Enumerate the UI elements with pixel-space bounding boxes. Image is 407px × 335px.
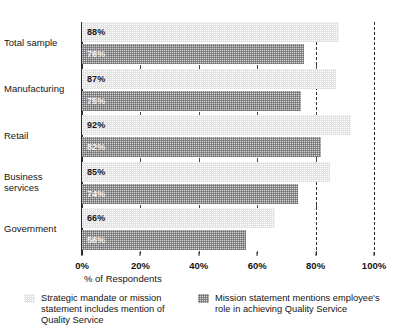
category-label-5: Government — [4, 224, 80, 235]
category-label-2: Manufacturing — [4, 84, 80, 95]
minor-tick-mark — [316, 66, 317, 69]
bar-employee-role: 56% — [82, 230, 246, 250]
x-tick-label-0pct: 0% — [75, 260, 89, 271]
bar-value-label: 56% — [87, 235, 105, 245]
bar-value-label: 92% — [87, 120, 105, 130]
x-tick-mark — [82, 252, 83, 256]
light-dotted-swatch — [24, 294, 35, 303]
bar-employee-role: 74% — [82, 184, 298, 204]
bar-value-label: 66% — [87, 213, 105, 223]
legend-entry-2: Mission statement mentions employee's ro… — [198, 293, 403, 315]
x-axis-title: % of Respondents — [84, 273, 162, 284]
dark-dotted-swatch — [198, 294, 209, 303]
legend-entry-1: Strategic mandate or mission statement i… — [24, 293, 194, 326]
minor-tick-mark — [199, 159, 200, 162]
x-tick-label-40pct: 40% — [189, 260, 208, 271]
minor-tick-mark — [199, 205, 200, 208]
minor-tick-mark — [257, 112, 258, 115]
bar-value-label: 82% — [87, 142, 105, 152]
minor-tick-mark — [140, 205, 141, 208]
minor-tick-mark — [316, 112, 317, 115]
bar-value-label: 74% — [87, 189, 105, 199]
bar-value-label: 87% — [87, 74, 105, 84]
bar-value-label: 76% — [87, 49, 105, 59]
x-tick-mark — [257, 252, 258, 256]
minor-tick-mark — [257, 159, 258, 162]
x-tick-mark — [374, 252, 375, 256]
minor-tick-mark — [140, 66, 141, 69]
minor-tick-mark — [140, 112, 141, 115]
category-label-3: Retail — [4, 131, 80, 142]
bar-strategic-mandate: 88% — [82, 22, 339, 42]
bar-employee-role: 82% — [82, 137, 321, 157]
x-tick-mark — [140, 252, 141, 256]
minor-tick-mark — [199, 66, 200, 69]
x-tick-mark — [198, 252, 199, 256]
bar-value-label: 75% — [87, 96, 105, 106]
bar-strategic-mandate: 66% — [82, 208, 275, 228]
legend-label-1: Strategic mandate or mission statement i… — [41, 293, 165, 326]
x-tick-label-20pct: 20% — [131, 260, 150, 271]
gridline-100pct — [374, 22, 375, 255]
category-label-4: Business services — [4, 172, 80, 193]
bar-value-label: 85% — [87, 167, 105, 177]
chart-legend: Strategic mandate or mission statement i… — [0, 293, 407, 335]
minor-tick-mark — [257, 205, 258, 208]
bar-employee-role: 75% — [82, 91, 301, 111]
bar-value-label: 88% — [87, 27, 105, 37]
x-tick-label-60pct: 60% — [248, 260, 267, 271]
bar-employee-role: 76% — [82, 44, 304, 64]
grouped-bar-chart: 88%76%87%75%92%82%85%74%66%56% Total sam… — [0, 0, 407, 335]
minor-tick-mark — [257, 66, 258, 69]
minor-tick-mark — [199, 112, 200, 115]
bar-strategic-mandate: 92% — [82, 115, 351, 135]
x-tick-label-80pct: 80% — [306, 260, 325, 271]
plot-area: 88%76%87%75%92%82%85%74%66%56% — [82, 22, 374, 255]
bar-strategic-mandate: 85% — [82, 162, 330, 182]
bar-strategic-mandate: 87% — [82, 69, 336, 89]
legend-label-2: Mission statement mentions employee's ro… — [215, 293, 380, 315]
category-label-1: Total sample — [4, 38, 80, 49]
x-tick-mark — [315, 252, 316, 256]
minor-tick-mark — [316, 159, 317, 162]
x-tick-label-100pct: 100% — [362, 260, 386, 271]
minor-tick-mark — [316, 205, 317, 208]
minor-tick-mark — [140, 159, 141, 162]
